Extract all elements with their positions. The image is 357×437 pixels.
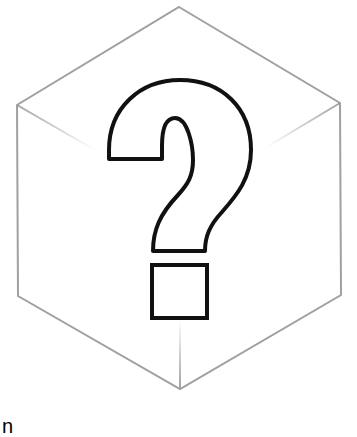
cube-inner-edge-left <box>17 105 95 150</box>
caption-text: n <box>2 414 13 437</box>
question-mark-hook <box>109 80 251 251</box>
question-mark-dot <box>152 265 207 318</box>
cube-inner-edge-right <box>265 103 340 148</box>
